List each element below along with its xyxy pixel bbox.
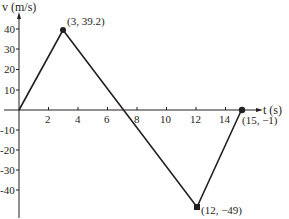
x-tick-label: 4	[75, 113, 81, 125]
x-tick-label: 2	[45, 113, 51, 125]
x-tick-label: 12	[190, 113, 201, 125]
point-3-39	[60, 27, 66, 33]
y-tick-label: 20	[4, 63, 15, 75]
y-tick-label: 10	[4, 84, 15, 96]
annotation-peak: (3, 39.2)	[67, 15, 105, 27]
x-tick-label: 10	[160, 113, 171, 125]
y-tick-label: 40	[4, 23, 15, 35]
y-tick-label: -10	[0, 124, 15, 136]
x-tick-label: 14	[219, 113, 230, 125]
chart-canvas	[0, 0, 289, 219]
point-12-neg49	[194, 204, 200, 210]
y-tick-label: -40	[0, 184, 15, 196]
velocity-line	[19, 30, 241, 207]
x-tick-label: 8	[134, 113, 140, 125]
annotation-end: (15, −1)	[242, 114, 278, 126]
x-axis-arrow-icon	[256, 108, 263, 112]
y-tick-label: 30	[4, 43, 15, 55]
y-tick-label: -30	[0, 164, 15, 176]
y-tick-label: -20	[0, 144, 15, 156]
x-tick-label: 6	[104, 113, 110, 125]
y-axis-label: v (m/s)	[2, 1, 36, 13]
annotation-trough: (12, −49)	[201, 204, 242, 216]
point-15-neg1	[239, 107, 245, 113]
